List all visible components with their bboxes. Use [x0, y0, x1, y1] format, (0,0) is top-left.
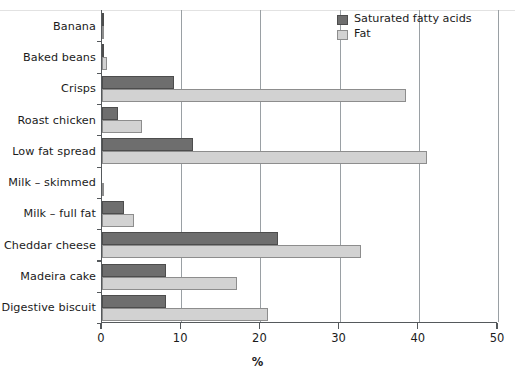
category-tick	[97, 104, 102, 105]
category-tick	[97, 198, 102, 199]
category-tick	[97, 167, 102, 168]
bar-fat	[102, 183, 104, 196]
category-label: Madeira cake	[0, 270, 96, 283]
x-axis-tick-label: 20	[239, 331, 279, 345]
x-axis-tick	[259, 323, 260, 329]
bar-fat	[102, 214, 134, 227]
legend-item-fat[interactable]: Fat	[337, 27, 472, 42]
bar-saturated-fatty-acids	[102, 13, 104, 26]
legend-item-label: Saturated fatty acids	[354, 12, 472, 27]
x-axis-tick-label: 10	[160, 331, 200, 345]
category-tick	[97, 73, 102, 74]
category-tick	[97, 135, 102, 136]
category-tick	[97, 260, 102, 261]
x-axis-tick-label: 40	[398, 331, 438, 345]
x-axis-tick-label: 50	[477, 331, 515, 345]
x-axis-tick-label: 30	[319, 331, 359, 345]
bar-fat	[102, 89, 406, 102]
legend-item-label: Fat	[354, 27, 371, 42]
legend-swatch-icon	[337, 30, 348, 40]
plot-area	[101, 10, 497, 323]
x-axis-tick-label: 0	[81, 331, 121, 345]
category-label: Milk – skimmed	[0, 176, 96, 189]
category-label: Crisps	[0, 82, 96, 95]
legend-swatch-icon	[337, 15, 348, 25]
bar-saturated-fatty-acids	[102, 264, 166, 277]
category-label: Banana	[0, 19, 96, 32]
category-label: Digestive biscuit	[0, 301, 96, 314]
legend-item-saturated-fatty-acids[interactable]: Saturated fatty acids	[337, 12, 472, 27]
gridline	[181, 10, 182, 322]
gridline	[419, 10, 420, 322]
bar-fat	[102, 245, 361, 258]
x-axis-tick	[100, 323, 101, 329]
x-axis-tick	[338, 323, 339, 329]
bar-saturated-fatty-acids	[102, 232, 278, 245]
category-tick	[97, 41, 102, 42]
category-tick	[97, 292, 102, 293]
bar-fat	[102, 277, 237, 290]
bar-fat	[102, 57, 107, 70]
bar-chart: BananaBaked beansCrispsRoast chickenLow …	[0, 0, 515, 384]
gridline	[340, 10, 341, 322]
category-label: Low fat spread	[0, 144, 96, 157]
category-axis-labels: BananaBaked beansCrispsRoast chickenLow …	[0, 10, 96, 323]
category-label: Roast chicken	[0, 113, 96, 126]
x-axis-tick	[180, 323, 181, 329]
gridline	[498, 10, 499, 322]
bar-fat	[102, 308, 268, 321]
bar-fat	[102, 26, 104, 39]
category-label: Baked beans	[0, 50, 96, 63]
bar-saturated-fatty-acids	[102, 201, 124, 214]
x-axis-tick	[417, 323, 418, 329]
x-axis-title: %	[0, 355, 515, 369]
category-label: Milk – full fat	[0, 207, 96, 220]
bar-saturated-fatty-acids	[102, 44, 104, 57]
gridline	[260, 10, 261, 322]
bar-fat	[102, 120, 142, 133]
bar-saturated-fatty-acids	[102, 295, 166, 308]
x-axis-tick	[496, 323, 497, 329]
bar-fat	[102, 151, 427, 164]
category-label: Cheddar cheese	[0, 238, 96, 251]
category-tick	[97, 229, 102, 230]
bar-saturated-fatty-acids	[102, 138, 193, 151]
bar-saturated-fatty-acids	[102, 76, 174, 89]
bar-saturated-fatty-acids	[102, 107, 118, 120]
legend: Saturated fatty acids Fat	[337, 12, 472, 42]
